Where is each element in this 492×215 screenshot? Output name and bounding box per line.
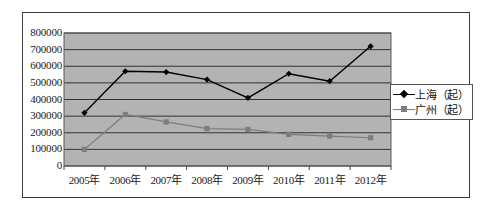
data-point-square [204, 126, 209, 131]
y-axis-tick-label: 300000 [30, 110, 62, 121]
x-axis-tick-label: 2006年 [104, 174, 146, 186]
x-axis-tick-label: 2007年 [145, 174, 187, 186]
x-axis-labels: 2005年2006年2007年2008年2009年2010年2011年2012年 [23, 170, 471, 192]
y-axis-tick-label: 200000 [30, 127, 62, 138]
data-point-square [286, 132, 291, 137]
data-point-square [368, 135, 373, 140]
chart-legend: 上海（起） 广州（起） [390, 84, 473, 120]
legend-label-shanghai: 上海（起） [415, 89, 469, 101]
diamond-marker-icon [393, 89, 415, 100]
data-point-square [327, 133, 332, 138]
y-axis-tick-label: 800000 [30, 27, 62, 38]
legend-entry-shanghai: 上海（起） [393, 87, 469, 102]
y-axis-tick-label: 100000 [30, 143, 62, 154]
square-marker-icon [393, 104, 415, 115]
data-point-square [82, 147, 87, 152]
y-axis-tick-label: 500000 [30, 77, 62, 88]
x-axis-tick-label: 2008年 [186, 174, 228, 186]
data-point-square [123, 112, 128, 117]
chart-figure-frame: 8000007000006000005000004000003000002000… [22, 12, 470, 198]
x-axis-tick-label: 2011年 [309, 174, 351, 186]
legend-entry-guangzhou: 广州（起） [393, 102, 469, 117]
x-axis-tick-label: 2012年 [350, 174, 392, 186]
data-point-square [164, 119, 169, 124]
legend-label-guangzhou: 广州（起） [415, 104, 469, 116]
data-point-square [245, 127, 250, 132]
x-axis-tick-label: 2005年 [63, 174, 105, 186]
y-axis-tick-label: 700000 [30, 44, 62, 55]
x-axis-tick-label: 2010年 [268, 174, 310, 186]
y-axis-tick-label: 600000 [30, 60, 62, 71]
y-axis-tick-label: 400000 [30, 94, 62, 105]
x-axis-tick-label: 2009年 [227, 174, 269, 186]
